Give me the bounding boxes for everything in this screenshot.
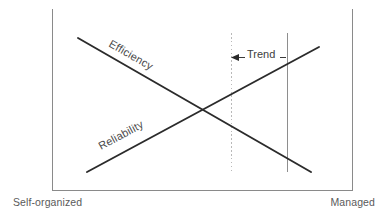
efficiency-label: Efficiency: [107, 37, 156, 72]
axis-caption-left: Self-organized: [13, 196, 82, 208]
axis-caption-right: Managed: [331, 196, 375, 208]
trend-label: Trend: [247, 48, 275, 60]
trend-arrow-head: [231, 54, 239, 61]
figure-canvas: Trend Efficiency Reliability Self-organi…: [0, 0, 386, 219]
reliability-label: Reliability: [96, 118, 145, 152]
trend-diagram: Trend Efficiency Reliability: [0, 0, 386, 219]
axis-frame: [53, 9, 353, 191]
reliability-line: [87, 47, 319, 172]
